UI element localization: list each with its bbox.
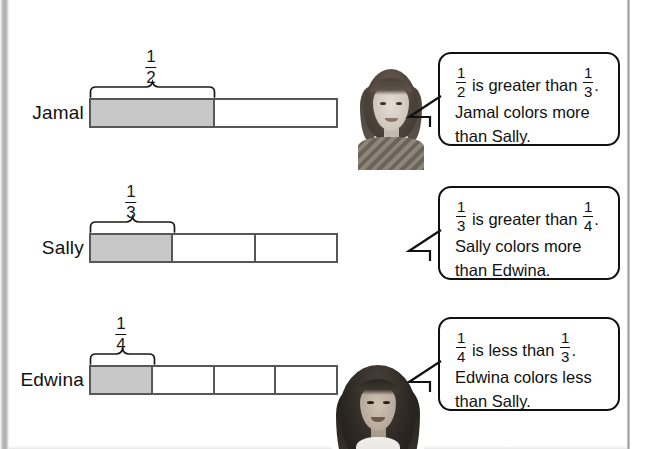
- comparison-phrase: is greater than: [472, 76, 577, 94]
- bar-segment-empty: [215, 367, 277, 393]
- speech-bubble-text-jamal: 12 is greater than 13. Jamal colors more…: [455, 65, 605, 148]
- bubble-line-3: than Sally.: [455, 389, 605, 413]
- fraction-compare-right: 14: [583, 199, 593, 234]
- name-label-jamal: Jamal: [32, 98, 84, 128]
- bubble-line-2: Sally colors more: [455, 234, 605, 258]
- bar-segment-empty: [153, 367, 215, 393]
- bar-segment-shaded: [91, 367, 153, 393]
- speech-bubble-text-edwina: 14 is less than 13. Edwina colors less t…: [455, 330, 605, 413]
- speech-bubble-text-sally: 13 is greater than 14. Sally colors more…: [455, 199, 605, 282]
- brace-group-jamal: 1 2: [89, 48, 217, 98]
- bar-segment-empty: [173, 235, 255, 261]
- eye-left: [380, 102, 386, 105]
- sentence-period: .: [594, 76, 599, 94]
- bar-segment-shaded: [91, 235, 173, 261]
- bubble-line-1: 13 is greater than 14.: [455, 199, 605, 234]
- fraction-bar-edwina: [89, 365, 338, 395]
- bar-segment-empty: [276, 367, 336, 393]
- name-label-edwina: Edwina: [20, 365, 84, 395]
- fraction-compare-right: 13: [560, 330, 570, 365]
- eye-right: [396, 102, 402, 105]
- bubble-line-2: Jamal colors more: [455, 100, 605, 124]
- bubble-line-3: than Sally.: [455, 124, 605, 148]
- speech-bubble-sally: 13 is greater than 14. Sally colors more…: [438, 186, 620, 280]
- speech-bubble-edwina: 14 is less than 13. Edwina colors less t…: [438, 317, 620, 411]
- comparison-phrase: is less than: [472, 341, 555, 359]
- bubble-line-1: 12 is greater than 13.: [455, 65, 605, 100]
- bubble-line-1: 14 is less than 13.: [455, 330, 605, 365]
- fraction-label-sally: 1 3: [124, 183, 137, 222]
- bubble-line-3: than Edwina.: [455, 258, 605, 282]
- fraction-bar-sally: [89, 233, 338, 263]
- speech-bubble-tail-jamal: [408, 94, 442, 128]
- fraction-compare-right: 13: [583, 65, 593, 100]
- speech-bubble-tail-sally: [408, 228, 442, 262]
- fraction-compare-left: 14: [456, 330, 466, 365]
- name-label-wrap-jamal: Jamal: [0, 98, 84, 128]
- fraction-row-jamal: Jamal 1 2: [0, 20, 653, 160]
- speech-bubble-jamal: 12 is greater than 13. Jamal colors more…: [438, 52, 620, 146]
- bar-segment-empty: [256, 235, 336, 261]
- comparison-phrase: is greater than: [472, 210, 577, 228]
- name-label-wrap-sally: Sally: [0, 233, 84, 263]
- name-label-wrap-edwina: Edwina: [0, 365, 84, 395]
- speech-bubble-tail-edwina: [408, 359, 442, 393]
- fraction-row-edwina: Edwina 1 4: [0, 307, 653, 447]
- sentence-period: .: [571, 341, 576, 359]
- fraction-bar-jamal: [89, 98, 338, 128]
- brace-group-sally: 1 3: [89, 183, 179, 233]
- name-label-sally: Sally: [42, 233, 84, 263]
- fraction-label-edwina: 1 4: [114, 315, 127, 354]
- sentence-period: .: [594, 210, 599, 228]
- bar-segment-empty: [215, 100, 337, 126]
- fraction-one-third: 1 3: [125, 183, 136, 222]
- fraction-compare-left: 13: [456, 199, 466, 234]
- fraction-one-half: 1 2: [145, 48, 156, 87]
- fraction-label-jamal: 1 2: [144, 48, 157, 87]
- bubble-line-2: Edwina colors less: [455, 365, 605, 389]
- worksheet-page: Jamal 1 2: [0, 0, 653, 449]
- brace-group-edwina: 1 4: [89, 315, 159, 365]
- fraction-one-fourth: 1 4: [115, 315, 126, 354]
- bar-segment-shaded: [91, 100, 215, 126]
- fraction-compare-left: 12: [456, 65, 466, 100]
- fraction-row-sally: Sally 1 3: [0, 165, 653, 305]
